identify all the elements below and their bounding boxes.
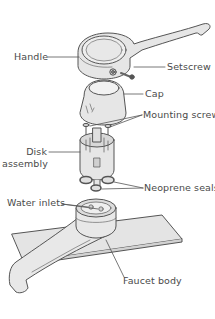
label-cap: Cap bbox=[145, 88, 164, 99]
cap-part bbox=[80, 80, 126, 125]
label-mounting-screws: Mounting screws bbox=[143, 109, 215, 120]
label-assembly: assembly bbox=[2, 158, 47, 169]
label-setscrew: Setscrew bbox=[167, 61, 211, 72]
label-handle: Handle bbox=[14, 51, 48, 62]
label-disk: Disk bbox=[2, 146, 47, 157]
setscrew-part bbox=[121, 73, 134, 79]
label-neoprene-seals: Neoprene seals bbox=[144, 182, 215, 193]
label-water-inlets: Water inlets bbox=[7, 197, 65, 208]
label-faucet-body: Faucet body bbox=[123, 275, 182, 286]
